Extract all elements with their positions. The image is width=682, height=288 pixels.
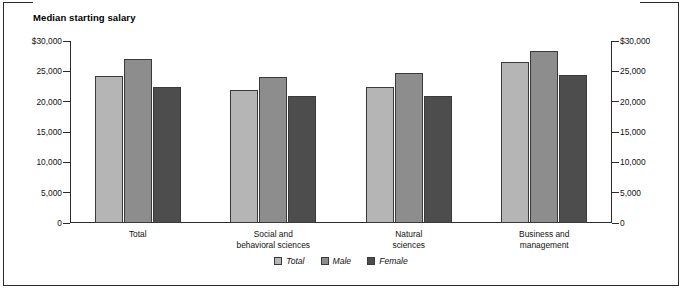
bar-total [230, 90, 258, 223]
y-tick-left [63, 101, 70, 102]
bar-female [559, 75, 587, 223]
x-axis-category-label: Total [68, 229, 208, 240]
legend-swatch-icon [274, 257, 282, 265]
bar-female [288, 96, 316, 223]
y-tick-left [63, 192, 70, 193]
y-tick-label-left: 0 [57, 219, 62, 227]
legend-swatch-icon [321, 257, 329, 265]
y-tick-right [612, 41, 619, 42]
y-tick-right [612, 101, 619, 102]
x-axis-category-label: Business andmanagement [474, 229, 614, 251]
y-axis-left-labels: $30,00025,00020,00015,00010,0005,0000 [0, 41, 62, 223]
y-tick-label-right: 15,000 [620, 128, 646, 136]
y-axis-right-labels: $30,00025,00020,00015,00010,0005,0000 [620, 41, 676, 223]
y-tick-left [63, 223, 70, 224]
y-tick-label-right: $30,000 [620, 37, 650, 45]
y-tick-right [612, 71, 619, 72]
y-tick-label-right: 10,000 [620, 158, 646, 166]
y-tick-label-left: 15,000 [36, 128, 62, 136]
legend-item: Total [274, 256, 304, 266]
chart-legend: TotalMaleFemale [0, 256, 682, 266]
bar-female [424, 96, 452, 223]
figure-border-top-right [640, 2, 679, 3]
legend-label: Female [379, 256, 408, 266]
bar-total [501, 62, 529, 223]
bar-group: Social andbehavioral sciences [230, 41, 316, 223]
legend-label: Total [286, 256, 304, 266]
legend-item: Male [321, 256, 352, 266]
y-tick-label-left: 25,000 [36, 67, 62, 75]
y-tick-left [63, 71, 70, 72]
y-tick-right [612, 162, 619, 163]
legend-swatch-icon [367, 257, 375, 265]
bar-group: Total [95, 41, 181, 223]
y-tick-left [63, 132, 70, 133]
y-tick-label-left: 5,000 [41, 189, 62, 197]
y-tick-label-right: 25,000 [620, 67, 646, 75]
bar-group: Business andmanagement [501, 41, 587, 223]
chart-title: Median starting salary [33, 12, 136, 23]
bar-male [395, 73, 423, 223]
y-tick-label-left: 20,000 [36, 98, 62, 106]
y-tick-right [612, 223, 619, 224]
legend-item: Female [367, 256, 408, 266]
bar-total [366, 87, 394, 223]
y-tick-label-right: 0 [620, 219, 625, 227]
y-tick-left [63, 41, 70, 42]
y-tick-label-right: 20,000 [620, 98, 646, 106]
y-tick-left [63, 162, 70, 163]
bar-total [95, 76, 123, 223]
y-tick-right [612, 192, 619, 193]
bar-groups: TotalSocial andbehavioral sciencesNatura… [70, 41, 612, 223]
y-tick-right [612, 132, 619, 133]
chart-figure: Median starting salary $30,00025,00020,0… [0, 0, 682, 288]
plot-area: TotalSocial andbehavioral sciencesNatura… [70, 41, 612, 223]
x-axis-category-label: Naturalsciences [339, 229, 479, 251]
x-axis-category-label: Social andbehavioral sciences [203, 229, 343, 251]
y-tick-label-left: 10,000 [36, 158, 62, 166]
y-tick-label-left: $30,000 [32, 37, 62, 45]
figure-border-top-left [3, 2, 33, 3]
legend-label: Male [333, 256, 352, 266]
bar-male [124, 59, 152, 223]
bar-male [259, 77, 287, 223]
bar-male [530, 51, 558, 223]
bar-group: Naturalsciences [366, 41, 452, 223]
bar-female [153, 87, 181, 224]
y-tick-label-right: 5,000 [620, 189, 641, 197]
